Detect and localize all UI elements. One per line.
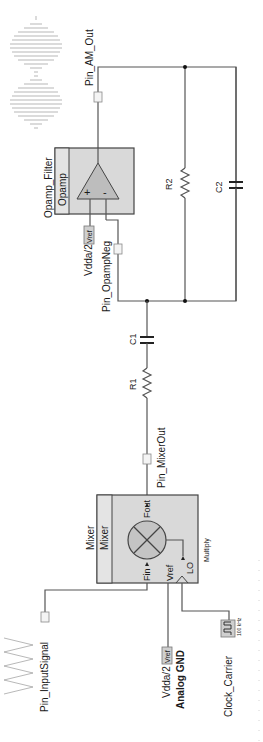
- mixer-fin-label: Fin: [142, 568, 152, 581]
- am-waveform-icon: [10, 16, 62, 128]
- opamp-minus-label: -: [103, 186, 107, 198]
- mixer-vref-tag: Vref: [164, 650, 171, 663]
- analog-gnd-label: Analog GND: [175, 650, 186, 709]
- opamp-type-name: Opamp: [57, 173, 68, 206]
- mixer-fout-label: Fout: [142, 499, 152, 518]
- mixer-vref[interactable]: Vref Vdda/2 Analog GND: [161, 647, 186, 709]
- vref-value: Vdda/2: [83, 244, 94, 276]
- pin-am-out-label: Pin_AM_Out: [84, 29, 95, 86]
- clock-label: Clock_Carrier: [223, 655, 234, 717]
- pin-am-out[interactable]: Pin_AM_Out: [84, 29, 102, 102]
- pin-input-signal[interactable]: Pin_InputSignal: [39, 612, 50, 712]
- c1-label: C1: [128, 333, 138, 345]
- r1-resistor-icon: [143, 368, 151, 398]
- r1-label: R1: [128, 378, 138, 390]
- r2-resistor-icon: [181, 168, 189, 198]
- mixer-component[interactable]: Mixer Mixer Multiply Fout Fin Vref LO: [85, 495, 211, 583]
- opamp-vref[interactable]: Vref Vdda/2: [83, 226, 94, 276]
- mixer-lo-label: LO: [185, 562, 195, 574]
- mixer-type-name: Mixer: [99, 525, 110, 550]
- pin-mixer-out-label: Pin_MixerOut: [156, 427, 167, 488]
- pin-opamp-neg-label: Pin_OpampNeg: [101, 241, 112, 312]
- junction-dot: [183, 299, 187, 303]
- opamp-filter-component[interactable]: + - Opamp_Filter Opamp: [43, 148, 134, 218]
- opamp-instance-name: Opamp_Filter: [43, 157, 54, 218]
- mixer-instance-name: Mixer: [85, 525, 96, 550]
- input-waveform-icon: [4, 638, 33, 694]
- wire-clock-lo: [182, 583, 229, 620]
- mixer-mode-label: Multiply: [203, 538, 211, 562]
- pin-input-signal-label: Pin_InputSignal: [39, 642, 50, 712]
- mixer-vref-value: Vdda/2: [161, 666, 172, 698]
- wire-input-signal: [45, 583, 147, 612]
- c2-label: C2: [214, 181, 224, 193]
- schematic-canvas: R2 C2 Pin_AM_Out + - Opamp_Filter Opamp …: [0, 0, 263, 742]
- clock-carrier-component[interactable]: Clock_Carrier 100 kHz: [221, 617, 242, 717]
- clock-frequency: 100 kHz: [236, 617, 242, 636]
- opamp-plus-label: +: [84, 186, 90, 198]
- input-rc-network: C1 R1: [128, 301, 154, 495]
- mixer-vref-label: Vref: [165, 564, 175, 581]
- junction-dot: [183, 65, 187, 69]
- r2-label: R2: [164, 178, 174, 190]
- vref-tag: Vref: [86, 230, 93, 243]
